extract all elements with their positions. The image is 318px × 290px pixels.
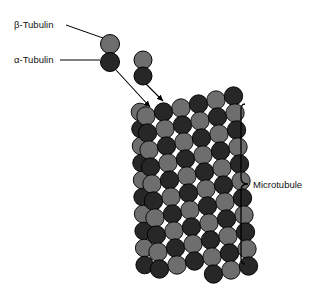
beta-subunit [181,201,199,219]
beta-subunit [156,120,174,138]
alpha-subunit [239,257,257,275]
alpha-subunit [195,163,213,181]
alpha-subunit [166,239,184,257]
alpha-subunit [182,218,200,236]
beta-subunit [101,35,120,54]
beta-subunit [200,214,218,232]
alpha-subunit [220,244,238,262]
beta-subunit [191,112,209,130]
alpha-subunit [160,171,178,189]
alpha-subunit [101,53,120,72]
alpha-subunit [157,137,175,155]
alpha-subunit [204,265,222,283]
alpha-subunit [185,252,203,270]
beta-subunit [168,256,186,274]
alpha-subunit [163,205,181,223]
alpha-subunit [211,142,229,160]
beta-subunit [197,180,215,198]
alpha-subunit [230,155,248,173]
beta-tubulin-label: β-Tubulin [14,19,53,30]
alpha-subunit [224,87,242,105]
beta-subunit [235,206,253,224]
alpha-subunit [201,231,219,249]
microtubule-label: Microtubule [253,179,302,190]
beta-subunit [194,146,212,164]
beta-subunit [207,91,225,109]
alpha-subunit [208,108,226,126]
alpha-subunit [144,192,162,210]
beta-subunit [213,159,231,177]
alpha-subunit [192,129,210,147]
beta-subunit [162,188,180,206]
alpha-subunit [233,189,251,207]
alpha-subunit [173,116,191,134]
alpha-subunit [189,95,207,113]
alpha-subunit [134,67,152,85]
alpha-subunit [198,197,216,215]
alpha-subunit [217,210,235,228]
alpha-subunit [141,158,159,176]
beta-subunit [149,243,167,261]
beta-subunit [222,261,240,279]
beta-subunit [146,209,164,227]
alpha-subunit [154,103,172,121]
beta-subunit [137,107,155,125]
beta-subunit [134,51,152,69]
alpha-subunit [147,226,165,244]
alpha-subunit [179,184,197,202]
alpha-subunit [176,150,194,168]
microtubule-diagram: β-Tubulin α-Tubulin Microtubule [0,0,318,290]
beta-subunit [203,248,221,266]
alpha-subunit [236,223,254,241]
beta-subunit [210,125,228,143]
beta-subunit [229,138,247,156]
beta-subunit [184,235,202,253]
beta-subunit [219,227,237,245]
alpha-subunit [150,260,168,278]
beta-subunit [140,141,158,159]
beta-subunit [165,222,183,240]
alpha-subunit [227,121,245,139]
alpha-subunit [214,176,232,194]
beta-subunit [178,167,196,185]
alpha-subunit [138,124,156,142]
beta-subunit [175,133,193,151]
beta-subunit [143,175,161,193]
alpha-tubulin-label: α-Tubulin [14,54,53,65]
beta-subunit [216,193,234,211]
beta-subunit [172,99,190,117]
beta-subunit [159,154,177,172]
